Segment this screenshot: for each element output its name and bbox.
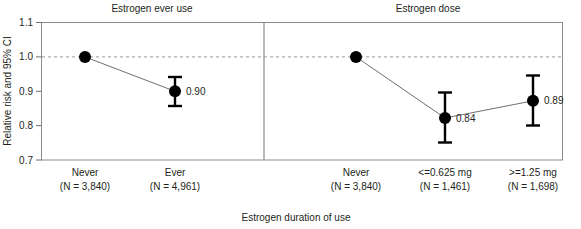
- value-label-right-dose-low: 0.84: [456, 113, 476, 124]
- x-category-n-right-never: (N = 3,840): [331, 181, 381, 192]
- x-category-n-right-dose-high: (N = 1,698): [508, 181, 558, 192]
- data-point-left-ever: [169, 85, 181, 97]
- value-label-left-ever: 0.90: [186, 86, 206, 97]
- data-point-right-never: [350, 51, 362, 63]
- series-estrogen-dose: 0.84 0.89: [350, 51, 564, 143]
- connector-line-left: [85, 57, 175, 91]
- y-tick-label-4: 0.8: [19, 120, 33, 131]
- y-axis-title: Relative risk and 95% CI: [2, 36, 13, 146]
- x-category-n-right-dose-low: (N = 1,461): [420, 181, 470, 192]
- chart-svg: Estrogen ever use Estrogen dose Relative…: [0, 0, 581, 229]
- x-category-label-right-dose-high: >=1.25 mg: [509, 167, 557, 178]
- value-label-right-dose-high: 0.89: [544, 95, 564, 106]
- plot-frame: [42, 23, 563, 161]
- x-axis-title: Estrogen duration of use: [242, 212, 351, 223]
- data-point-right-dose-low: [439, 112, 451, 124]
- panel-title-left: Estrogen ever use: [111, 3, 193, 14]
- x-category-label-left-never: Never: [72, 167, 99, 178]
- x-category-label-right-dose-low: <=0.625 mg: [418, 167, 471, 178]
- data-point-left-never: [79, 51, 91, 63]
- x-category-n-left-never: (N = 3,840): [60, 181, 110, 192]
- forest-plot-figure: Estrogen ever use Estrogen dose Relative…: [0, 0, 581, 229]
- panel-title-right: Estrogen dose: [396, 3, 461, 14]
- y-tick-label-3: 0.9: [19, 86, 33, 97]
- y-tick-label-1: 1.1: [19, 17, 33, 28]
- x-category-label-right-never: Never: [343, 167, 370, 178]
- x-category-label-left-ever: Ever: [165, 167, 186, 178]
- connector-line-right-1: [356, 57, 445, 118]
- data-point-right-dose-high: [527, 95, 539, 107]
- y-tick-label-5: 0.7: [19, 155, 33, 166]
- series-estrogen-ever-use: 0.90: [79, 51, 206, 107]
- x-category-n-left-ever: (N = 4,961): [150, 181, 200, 192]
- y-tick-label-2: 1.0: [19, 51, 33, 62]
